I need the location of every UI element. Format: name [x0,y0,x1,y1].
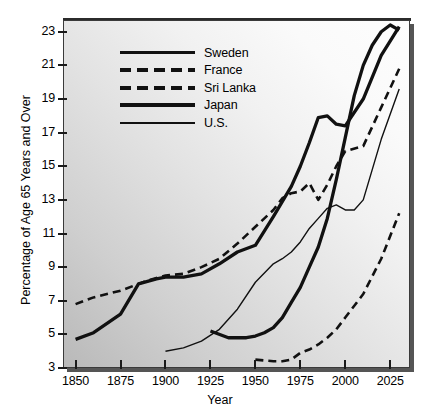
x-tick-mark [254,360,256,369]
legend-item: Sri Lanka [120,79,256,97]
legend-swatch-icon [120,116,195,130]
x-tick-mark [299,360,301,369]
y-axis-title: Percentage of Age 65 Years and Over [19,70,33,330]
legend-swatch-icon [120,81,195,95]
y-tick-mark [58,165,67,167]
legend-swatch-icon [120,63,195,77]
y-tick-label: 21 [17,58,55,70]
y-tick-label: 3 [17,361,55,373]
x-tick-mark [75,360,77,369]
y-tick-mark [58,132,67,134]
y-tick-mark [58,333,67,335]
y-tick-mark [58,300,67,302]
legend-item-label: Japan [204,98,238,112]
y-tick-label: 23 [17,25,55,37]
legend-item-label: U.S. [204,116,228,130]
series-line-sri-lanka [255,213,399,361]
legend-item-label: France [204,63,242,77]
legend-swatch-icon [120,98,195,112]
y-tick-mark [58,98,67,100]
x-tick-mark [344,360,346,369]
legend-item: U.S. [120,114,256,132]
x-tick-mark [389,360,391,369]
y-tick-mark [58,31,67,33]
chart-legend: SwedenFranceSri LankaJapanU.S. [120,44,256,132]
y-tick-mark [58,367,67,369]
legend-item-label: Sri Lanka [204,81,256,95]
y-tick-mark [58,64,67,66]
y-tick-mark [58,233,67,235]
legend-item: France [120,62,256,80]
legend-item: Japan [120,97,256,115]
x-tick-mark [120,360,122,369]
x-tick-label: 2025 [360,374,420,388]
legend-item: Sweden [120,44,256,62]
y-tick-mark [58,199,67,201]
legend-item-label: Sweden [204,46,249,60]
x-tick-mark [164,360,166,369]
x-axis-title: Year [0,393,440,407]
y-tick-mark [58,266,67,268]
x-tick-mark [209,360,211,369]
chart-figure: 357911131517192123 185018751900192519501… [0,0,440,419]
legend-swatch-icon [120,46,195,60]
